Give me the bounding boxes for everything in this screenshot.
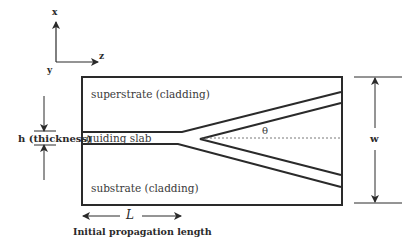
x-axis-label: x <box>52 8 57 17</box>
y-branch-waveguide-diagram <box>0 0 420 246</box>
y-axis-label: y <box>47 66 52 75</box>
guiding-slab-label: guiding slab <box>86 133 151 144</box>
z-axis-label: z <box>99 52 104 61</box>
length-symbol: L <box>126 209 134 221</box>
substrate-label: substrate (cladding) <box>91 183 199 194</box>
thickness-label: h (thickness) <box>18 134 92 144</box>
coordinate-axes <box>56 22 98 62</box>
width-label: w <box>370 134 379 144</box>
length-caption: Initial propagation length <box>73 227 212 237</box>
superstrate-label: superstrate (cladding) <box>91 89 210 100</box>
angle-theta-label: θ <box>262 126 268 136</box>
